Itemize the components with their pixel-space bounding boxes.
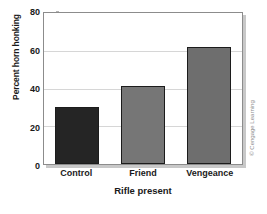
bar-control[interactable]: [55, 107, 99, 164]
plot-area: [43, 12, 243, 165]
x-axis-title: Rifle present: [43, 185, 243, 196]
y-axis-tick-labels: 80 60 40 20 0: [16, 12, 40, 166]
bar-group: [44, 13, 242, 164]
y-tick-label-60: 60: [30, 46, 40, 56]
y-tick-label-0: 0: [35, 161, 40, 171]
y-tick-label-80: 80: [30, 7, 40, 17]
x-tick-label-friend: Friend: [112, 168, 174, 178]
bar-vengeance[interactable]: [187, 47, 231, 164]
bar-chart-figure: Percent horn honking 80 60 40 20 0 Contr…: [0, 0, 267, 214]
x-axis-tick-labels: Control Friend Vengeance: [43, 168, 243, 178]
y-tick-label-20: 20: [30, 123, 40, 133]
x-tick-label-vengeance: Vengeance: [179, 168, 241, 178]
copyright-credit: © Cengage Learning: [249, 68, 255, 188]
x-tick-label-control: Control: [45, 168, 107, 178]
bar-friend[interactable]: [121, 86, 165, 164]
y-tick-label-40: 40: [30, 84, 40, 94]
